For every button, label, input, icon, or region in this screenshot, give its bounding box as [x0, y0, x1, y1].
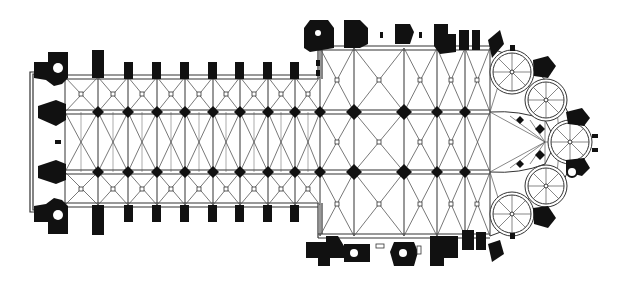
- pier-row-bottom: [92, 164, 471, 180]
- chapel-1: [490, 50, 534, 94]
- chapel-5: [490, 192, 534, 236]
- buttresses-bottom: [92, 205, 299, 235]
- south-chapels: [306, 230, 486, 266]
- chapel-4: [525, 165, 567, 207]
- cathedral-floor-plan: [0, 0, 630, 285]
- west-tower-south: [34, 160, 68, 234]
- stair-turret-opening: [567, 167, 577, 177]
- west-tower-north: [34, 52, 68, 126]
- chapel-2: [525, 79, 567, 121]
- pier-row-top: [92, 104, 471, 120]
- chapel-3: [548, 120, 592, 164]
